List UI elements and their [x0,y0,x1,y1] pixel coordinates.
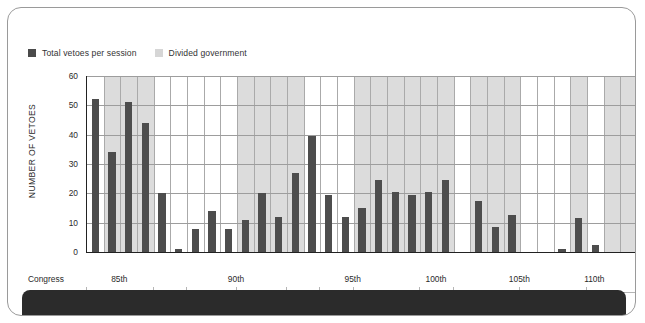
bar [358,208,366,252]
y-axis-tick-label: 30 [69,159,78,169]
bar [225,229,233,252]
bar [375,180,383,252]
legend-item-total-vetoes: Total vetoes per session [28,48,137,58]
bar [425,192,433,252]
congress-row-label: Congress [28,274,64,284]
gridline [87,193,636,194]
bar [125,102,133,252]
gridline [87,164,636,165]
bar [508,215,516,252]
bar [242,220,250,252]
bottom-accent-band [22,290,626,316]
plot-area: NUMBER OF VETOES 0102030405060 [8,68,636,273]
y-axis-tick-label: 60 [69,71,78,81]
bar [342,217,350,252]
bar [292,173,300,252]
congress-tick-label: 110th [584,274,604,284]
y-axis-ticks: 0102030405060 [52,68,78,253]
congress-tick-label: 100th [426,274,447,284]
bar [325,195,333,252]
y-axis-tick-label: 0 [73,247,78,257]
bar [92,99,100,252]
bar [192,229,200,252]
bar [158,193,166,252]
bar [492,227,500,252]
legend-swatch-light-icon [155,49,163,57]
y-axis-title: NUMBER OF VETOES [27,91,37,211]
chart-card: Total vetoes per session Divided governm… [7,7,636,316]
gridline [87,105,636,106]
gridline [87,76,636,77]
y-axis-tick-label: 10 [69,218,78,228]
legend-item-divided-government: Divided government [155,48,247,58]
bar [408,195,416,252]
bar [575,218,583,252]
congress-tick-label: 90th [228,274,244,284]
y-axis-tick-label: 40 [69,130,78,140]
chart-legend: Total vetoes per session Divided governm… [28,46,265,60]
y-axis-tick-label: 50 [69,100,78,110]
bar [558,249,566,252]
y-axis-tick-label: 20 [69,188,78,198]
legend-swatch-dark-icon [28,49,36,57]
bar [175,249,183,252]
bar [442,180,450,252]
bar [108,152,116,252]
bar [275,217,283,252]
president-axis-tick [635,287,636,293]
bar [142,123,150,252]
congress-tick-label: 95th [345,274,361,284]
bar [208,211,216,252]
legend-label-total-vetoes: Total vetoes per session [42,48,137,58]
bar [475,201,483,252]
congress-tick-label: 105th [509,274,530,284]
legend-label-divided-government: Divided government [169,48,247,58]
bar [392,192,400,252]
bar [258,193,266,252]
bar [308,136,316,252]
congress-tick-label: 85th [111,274,127,284]
congress-axis: 85th90th95th100th105th110th [86,274,636,287]
bar [592,245,600,252]
gridline [87,135,636,136]
plot-canvas [86,76,636,253]
